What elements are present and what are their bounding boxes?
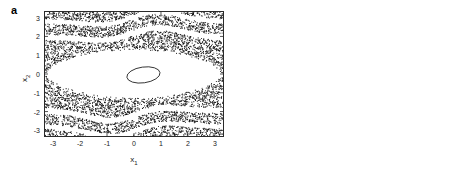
panel-a-ytick-1: -2 [22,108,40,115]
panel-a-ytick-2: -1 [22,89,40,96]
figure-container: a -3-2-10123 -3-2-10123 x1 x2 b 05000100… [0,0,462,173]
panel-a-xtick-3: 0 [132,140,136,147]
x-axis-subscript: 1 [134,160,137,166]
panel-a-xtick-4: 1 [159,140,163,147]
panel-a-ytick-6: 3 [22,14,40,21]
panel-a-x-axis-title: x1 [130,155,137,166]
panel-a-xtick-0: -3 [50,140,56,147]
panel-a-ytick-4: 1 [22,52,40,59]
panel-a-xtick-1: -2 [77,140,83,147]
panel-a-y-axis-title: x2 [20,75,31,82]
panel-a-letter: a [11,4,17,16]
panel-b: b 05000100001500020000 0.00011e-061e-081… [231,0,462,173]
panel-a-ytick-0: -3 [22,127,40,134]
phase-portrait-scatter [45,12,223,136]
panel-a-xtick-6: 3 [213,140,217,147]
y-axis-base: x [20,78,29,82]
panel-a: a -3-2-10123 -3-2-10123 x1 x2 [0,0,231,173]
y-axis-subscript: 2 [25,75,31,78]
panel-a-xtick-5: 2 [186,140,190,147]
panel-a-plot-area [44,11,224,137]
panel-a-xtick-2: -1 [104,140,110,147]
panel-a-ytick-5: 2 [22,33,40,40]
